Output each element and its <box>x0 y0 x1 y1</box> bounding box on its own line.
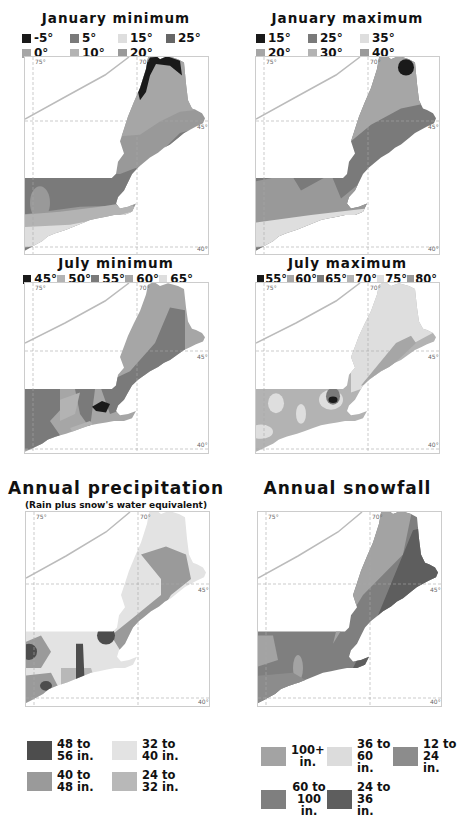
legend-swatch <box>27 772 52 791</box>
svg-text:70°: 70° <box>370 58 381 65</box>
map-july-maximum: 75° 70° 45° 40° <box>255 282 440 454</box>
legend-swatch <box>22 34 31 43</box>
legend-swatch <box>261 790 286 809</box>
legend-swatch <box>112 772 137 791</box>
legend-swatch <box>166 34 175 43</box>
svg-text:70°: 70° <box>139 58 150 65</box>
svg-text:45°: 45° <box>430 586 441 593</box>
svg-text:45°: 45° <box>428 123 439 130</box>
svg-text:45°: 45° <box>428 353 439 360</box>
svg-text:75°: 75° <box>266 58 277 65</box>
panel-title: January maximum <box>232 10 463 26</box>
legend-item: 25° <box>308 31 360 45</box>
legend-item: 24 to32 in. <box>112 769 197 793</box>
panel-annual-precipitation: Annual precipitation (Rain plus snow's w… <box>0 478 232 798</box>
legend-item: 40 to48 in. <box>27 769 112 793</box>
legend-item: 60 to100 in. <box>261 781 327 817</box>
legend-swatch <box>261 747 286 766</box>
legend-item: 32 to40 in. <box>112 738 197 762</box>
legend-swatch <box>327 790 352 809</box>
legend-item: 24 to36 in. <box>327 781 393 817</box>
map-january-maximum: 75° 70° 45° 40° <box>255 56 440 255</box>
panel-january-minimum: January minimum -5° 5° 15° 25° 0° 10° 20… <box>0 0 232 260</box>
svg-text:70°: 70° <box>372 513 383 520</box>
panel-subtitle: (Rain plus snow's water equivalent) <box>0 500 232 510</box>
legend-item: 12 to24 in. <box>393 738 459 774</box>
legend-item: 5° <box>70 31 118 45</box>
panel-title: July minimum <box>0 255 232 271</box>
svg-text:75°: 75° <box>36 513 47 520</box>
legend-swatch <box>360 34 369 43</box>
legend-item: 15° <box>256 31 308 45</box>
svg-text:40°: 40° <box>197 245 208 252</box>
legend-swatch <box>118 34 127 43</box>
svg-text:40°: 40° <box>428 441 439 448</box>
map-annual-snowfall: 75° 70° 45° 40° <box>257 511 442 707</box>
panel-title: July maximum <box>232 255 463 271</box>
svg-text:70°: 70° <box>140 513 151 520</box>
svg-text:70°: 70° <box>139 284 150 291</box>
legend-item: 15° <box>118 31 166 45</box>
legend-item: 48 to56 in. <box>27 738 112 762</box>
svg-text:75°: 75° <box>268 513 279 520</box>
panel-title: Annual precipitation <box>0 478 232 498</box>
legend-item: 36 to60 in. <box>327 738 393 774</box>
svg-text:45°: 45° <box>197 353 208 360</box>
svg-text:40°: 40° <box>198 698 209 705</box>
panel-annual-snowfall: Annual snowfall 75° 70° 45° 40° <box>232 478 463 798</box>
legend-item: -5° <box>22 31 70 45</box>
legend: 48 to56 in. 32 to40 in. 40 to48 in. 24 t… <box>27 738 197 793</box>
legend: 100+in. 36 to60 in. 12 to24 in. 60 to100… <box>261 738 459 817</box>
svg-text:75°: 75° <box>266 284 277 291</box>
legend-item: 35° <box>360 31 412 45</box>
map-july-minimum: 75° 70° 45° 40° <box>24 282 209 454</box>
panel-january-maximum: January maximum 15° 25° 35° 20° 30° 40° … <box>232 0 463 260</box>
svg-text:45°: 45° <box>198 586 209 593</box>
svg-text:40°: 40° <box>428 245 439 252</box>
svg-text:45°: 45° <box>197 123 208 130</box>
legend-swatch <box>70 34 79 43</box>
panel-july-minimum: July minimum 45° 50° 55° 60° 65° 75° <box>0 255 232 455</box>
panel-july-maximum: July maximum 55° 60° 65° 70° 75° 80° <box>232 255 463 455</box>
svg-text:40°: 40° <box>197 441 208 448</box>
legend-swatch <box>308 34 317 43</box>
legend-swatch <box>256 34 265 43</box>
panel-title: Annual snowfall <box>232 478 463 498</box>
panel-title: January minimum <box>0 10 232 26</box>
svg-text:75°: 75° <box>35 284 46 291</box>
legend-swatch <box>393 747 418 766</box>
svg-text:40°: 40° <box>430 698 441 705</box>
legend-item: 100+in. <box>261 738 327 774</box>
legend-item: 25° <box>166 31 214 45</box>
legend-swatch <box>27 741 52 760</box>
svg-text:75°: 75° <box>35 58 46 65</box>
map-january-minimum: 75° 70° 45° 40° <box>24 56 209 255</box>
map-annual-precipitation: 75° 70° 45° 40° <box>25 511 210 707</box>
legend-swatch <box>327 747 352 766</box>
legend-swatch <box>112 741 137 760</box>
svg-text:70°: 70° <box>370 284 381 291</box>
